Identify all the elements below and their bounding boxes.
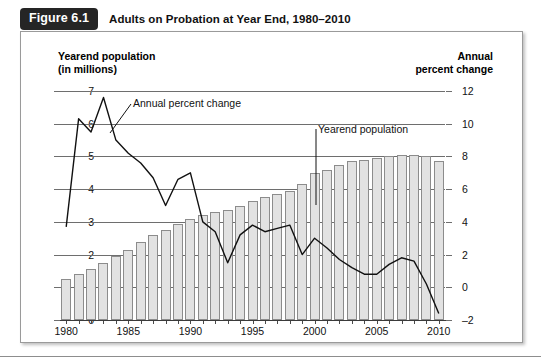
right-axis-tick-mark [446,222,452,223]
x-axis-tick-mark [215,321,216,324]
bar-2000 [310,173,320,320]
x-axis-tick-mark [79,321,80,324]
annotation-yearend-population: Yearend population [318,123,408,135]
gridline [60,91,445,92]
bar-1987 [148,235,158,320]
x-axis-tick-label: 2005 [365,325,388,337]
right-axis-tick-label: 12 [462,85,492,97]
right-axis-tick-label: 2 [462,249,492,261]
x-axis-tick-mark [339,321,340,324]
x-axis-tick-mark [389,321,390,324]
figure-container: Figure 6.1 Adults on Probation at Year E… [0,0,541,362]
x-axis-tick-label: 1995 [241,325,264,337]
x-axis-tick-mark [265,321,266,324]
x-axis-tick-mark [153,321,154,324]
bar-2008 [409,155,419,320]
right-axis-tick-mark [446,189,452,190]
right-axis-tick-label: 6 [462,183,492,195]
right-axis-tick-label: 8 [462,150,492,162]
bar-1980 [61,279,71,320]
bar-2005 [372,158,382,320]
right-axis-title-line1: Annual [415,50,493,63]
bar-1998 [285,191,295,320]
x-axis-tick-mark [253,321,254,324]
bar-1988 [161,230,171,320]
x-axis-tick-mark [128,321,129,324]
bar-2006 [384,156,394,320]
bar-2002 [334,165,344,320]
bar-1982 [86,269,96,320]
x-axis-tick-mark [402,321,403,324]
right-axis-tick-label: 10 [462,118,492,130]
left-axis-title-line2: (in millions) [58,63,155,76]
bar-1999 [297,184,307,320]
x-axis-tick-label: 2000 [303,325,326,337]
x-axis-tick-mark [439,321,440,324]
bar-1989 [173,224,183,321]
left-axis-title: Yearend population (in millions) [58,50,155,75]
bar-1992 [210,212,220,320]
figure-header: Figure 6.1 Adults on Probation at Year E… [20,8,351,30]
annotation-annual-percent-change: Annual percent change [133,97,241,109]
x-axis-tick-mark [327,321,328,324]
x-axis-tick-mark [302,321,303,324]
figure-number-badge: Figure 6.1 [20,8,98,30]
x-axis-tick-mark [315,321,316,324]
bar-2009 [421,156,431,320]
x-axis-tick-mark [141,321,142,324]
x-axis-tick-mark [166,321,167,324]
bar-1996 [260,197,270,320]
right-axis-tick-mark [446,255,452,256]
x-axis-tick-mark [228,321,229,324]
bar-1990 [185,219,195,320]
bar-2004 [359,160,369,320]
right-axis-tick-mark [446,320,452,321]
x-axis-tick-mark [203,321,204,324]
right-axis-title: Annual percent change [415,50,493,75]
bar-2007 [397,155,407,320]
bottom-divider [0,356,541,357]
bar-1985 [123,250,133,320]
left-axis-title-line1: Yearend population [58,50,155,63]
right-axis-tick-label: –2 [462,314,492,326]
bar-1995 [248,201,258,320]
x-axis-tick-mark [352,321,353,324]
x-axis-tick-mark [364,321,365,324]
bar-1986 [136,242,146,321]
x-axis-tick-mark [190,321,191,324]
bar-1994 [235,206,245,321]
bar-2003 [347,161,357,320]
right-axis-tick-mark [446,287,452,288]
bar-2010 [434,161,444,320]
x-axis-tick-mark [178,321,179,324]
x-axis-tick-mark [290,321,291,324]
x-axis-tick-label: 1980 [55,325,78,337]
bar-2001 [322,170,332,320]
bar-1997 [272,194,282,320]
right-axis-tick-mark [446,91,452,92]
x-axis-tick-mark [103,321,104,324]
x-axis-tick-mark [91,321,92,324]
x-axis-tick-mark [116,321,117,324]
x-axis-tick-mark [277,321,278,324]
right-axis-title-line2: percent change [415,63,493,76]
right-axis-tick-label: 0 [462,281,492,293]
right-axis-tick-mark [446,156,452,157]
x-axis-tick-label: 2010 [427,325,450,337]
x-axis-tick-mark [377,321,378,324]
bar-1993 [223,210,233,320]
right-axis-tick-label: 4 [462,216,492,228]
right-axis-tick-mark [446,124,452,125]
x-axis-tick-mark [426,321,427,324]
bar-1991 [198,215,208,320]
x-axis-tick-mark [240,321,241,324]
x-axis-tick-mark [414,321,415,324]
bar-1984 [111,256,121,320]
bar-1983 [98,263,108,320]
x-axis-tick-label: 1990 [179,325,202,337]
x-axis-tick-label: 1985 [117,325,140,337]
bar-1981 [74,274,84,320]
figure-title: Adults on Probation at Year End, 1980–20… [109,13,351,25]
x-axis-tick-mark [66,321,67,324]
